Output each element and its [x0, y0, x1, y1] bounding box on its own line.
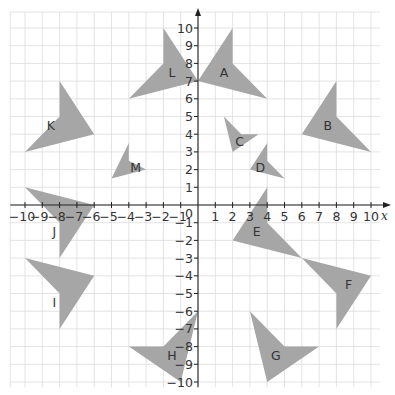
shape-label-a: A: [220, 65, 229, 80]
y-tick-label: −6: [175, 304, 193, 319]
y-tick-label: 8: [185, 56, 193, 71]
x-tick-label: −4: [117, 209, 135, 224]
y-tick-label: 9: [185, 38, 193, 53]
y-tick-label: 3: [185, 144, 193, 159]
x-tick-label: −2: [151, 209, 169, 224]
y-tick-label: 7: [185, 74, 193, 89]
x-axis-label: x: [381, 209, 388, 223]
shape-label-j: J: [52, 224, 57, 239]
shape-label-d: D: [255, 160, 265, 175]
shape-label-i: I: [53, 295, 57, 310]
x-tick-label: −6: [82, 209, 100, 224]
x-tick-label: 4: [263, 209, 271, 224]
coordinate-plane: ALBKCDMJIEFGH −10−9−8−7−6−5−4−3−2−112345…: [0, 0, 395, 395]
x-tick-label: 10: [363, 209, 379, 224]
y-tick-label: 6: [185, 91, 193, 106]
x-tick-label: −5: [99, 209, 117, 224]
x-tick-label: −3: [134, 209, 152, 224]
x-axis-arrow-icon: [383, 202, 391, 208]
axes: [10, 8, 391, 387]
y-tick-label: −9: [175, 357, 193, 372]
y-tick-label: −5: [175, 286, 193, 301]
shape-label-l: L: [169, 65, 176, 80]
shape-label-c: C: [235, 134, 244, 149]
y-tick-label: 5: [185, 109, 193, 124]
coordinate-grid-figure: ALBKCDMJIEFGH −10−9−8−7−6−5−4−3−2−112345…: [0, 0, 395, 395]
x-tick-label: 3: [246, 209, 254, 224]
shape-label-e: E: [253, 224, 261, 239]
shape-label-m: M: [130, 160, 141, 175]
x-tick-label: 8: [332, 209, 340, 224]
y-tick-label: −7: [175, 321, 193, 336]
y-tick-label: 4: [185, 127, 193, 142]
y-tick-label: 2: [185, 162, 193, 177]
x-tick-label: 7: [315, 209, 323, 224]
x-tick-label: −8: [47, 209, 65, 224]
x-tick-label: 2: [229, 209, 237, 224]
x-tick-label: 9: [350, 209, 358, 224]
y-tick-label: 10: [177, 21, 193, 36]
x-tick-label: 1: [211, 209, 219, 224]
y-tick-label: −4: [175, 268, 193, 283]
origin-label: 0: [185, 206, 193, 221]
shape-label-g: G: [271, 348, 281, 363]
shape-label-k: K: [47, 118, 56, 133]
x-tick-label: −9: [30, 209, 48, 224]
x-tick-label: 5: [281, 209, 289, 224]
y-tick-label: −10: [167, 375, 193, 390]
x-tick-label: −7: [65, 209, 83, 224]
x-tick-label: 6: [298, 209, 306, 224]
y-tick-label: −2: [175, 233, 193, 248]
y-tick-label: −8: [175, 339, 193, 354]
shape-label-b: B: [323, 118, 332, 133]
y-tick-label: 1: [185, 180, 193, 195]
y-tick-label: −3: [175, 251, 193, 266]
shape-label-f: F: [345, 277, 352, 292]
